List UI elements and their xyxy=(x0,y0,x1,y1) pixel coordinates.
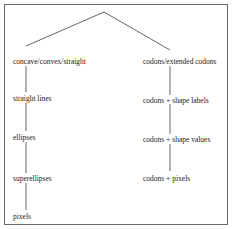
node-concave-convex-straight: concave/convex/straight xyxy=(13,58,86,66)
tree-connectors xyxy=(0,0,233,229)
node-ellipses: ellipses xyxy=(13,134,36,142)
node-codons-shape-labels: codons + shape labels xyxy=(143,97,209,105)
root-left-edge xyxy=(26,12,104,46)
node-codons-pixels: codons + pixels xyxy=(143,175,190,183)
node-superellipses: superellipses xyxy=(13,175,52,183)
node-straight-lines: straight lines xyxy=(13,95,52,103)
node-codons-extended-codons: codons/extended codons xyxy=(143,58,217,66)
root-right-edge xyxy=(104,12,170,50)
node-codons-shape-values: codons + shape values xyxy=(143,136,210,144)
node-pixels: pixels xyxy=(13,213,31,221)
